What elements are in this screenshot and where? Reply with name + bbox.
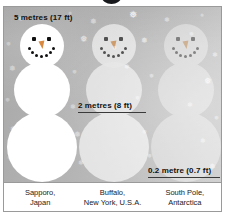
snowman-face [92, 24, 136, 68]
coal-mouth-icon [31, 51, 34, 54]
measurement-label-sapporo: 5 metres (17 ft) [14, 13, 73, 25]
coal-mouth-icon [45, 54, 48, 57]
coal-mouth-icon [196, 47, 199, 50]
coal-mouth-icon [124, 47, 127, 50]
caption-south-pole: South Pole, Antarctica [149, 183, 221, 212]
snowman-middle-ball [14, 62, 70, 118]
snowman-bottom-ball [79, 112, 149, 182]
coal-eye-icon [191, 37, 195, 41]
coal-mouth-icon [172, 47, 175, 50]
coal-mouth-icon [40, 55, 43, 58]
clipped-title-glyph [102, 0, 121, 4]
snowman-face [20, 24, 64, 68]
caption-line-1: South Pole, [165, 188, 204, 198]
coal-mouth-icon [49, 51, 52, 54]
caption-line-1: Sapporo, [25, 188, 55, 198]
coal-eye-icon [47, 37, 51, 41]
snowman-face [164, 24, 208, 68]
carrot-nose-icon [182, 41, 189, 50]
caption-strip: Sapporo, Japan Buffalo, New York, U.S.A.… [4, 182, 221, 212]
snowman-sapporo [6, 24, 78, 182]
coal-mouth-icon [100, 47, 103, 50]
measurement-text: 5 metres (17 ft) [14, 13, 73, 23]
coal-mouth-icon [179, 54, 182, 57]
coal-eye-icon [32, 37, 36, 41]
snowflake-icon: ❅ [200, 13, 204, 18]
coal-eye-icon [104, 37, 108, 41]
caption-line-2: Japan [30, 198, 50, 208]
coal-mouth-icon [103, 51, 106, 54]
snowman-height-comparison-figure: ❅ ❅ ❅ ❅ ❅ ❅ ❅ ❅ ❅ ❅ ❅ ❅ ❅ ❅ ❅ ❅ ❅ ❅ ❅ ❅ … [0, 0, 225, 215]
caption-line-2: New York, U.S.A. [84, 198, 142, 208]
measurement-text: 2 metres (8 ft) [78, 101, 146, 111]
coal-mouth-icon [112, 55, 115, 58]
snowman-bottom-ball [7, 112, 77, 182]
snow-scene: ❅ ❅ ❅ ❅ ❅ ❅ ❅ ❅ ❅ ❅ ❅ ❅ ❅ ❅ ❅ ❅ ❅ ❅ ❅ ❅ … [4, 7, 221, 182]
caption-sapporo: Sapporo, Japan [4, 183, 76, 212]
coal-mouth-icon [189, 54, 192, 57]
caption-buffalo: Buffalo, New York, U.S.A. [76, 183, 148, 212]
coal-mouth-icon [28, 47, 31, 50]
coal-mouth-icon [35, 54, 38, 57]
snowman-south-pole [150, 24, 221, 182]
measurement-rule [148, 177, 220, 178]
coal-mouth-icon [193, 51, 196, 54]
coal-mouth-icon [184, 55, 187, 58]
caption-line-2: Antarctica [168, 198, 201, 208]
carrot-nose-icon [110, 41, 117, 50]
coal-eye-icon [176, 37, 180, 41]
snowflake-icon: ❅ [129, 10, 137, 20]
measurement-rule [14, 24, 73, 25]
caption-line-1: Buffalo, [100, 188, 125, 198]
measurement-label-south-pole: 0.2 metre (0.7 ft) [148, 166, 220, 178]
measurement-label-buffalo: 2 metres (8 ft) [78, 101, 146, 113]
measurement-text: 0.2 metre (0.7 ft) [148, 166, 220, 176]
coal-mouth-icon [107, 54, 110, 57]
coal-mouth-icon [175, 51, 178, 54]
coal-eye-icon [119, 37, 123, 41]
coal-mouth-icon [117, 54, 120, 57]
snowflake-icon: ❅ [164, 16, 170, 23]
coal-mouth-icon [52, 47, 55, 50]
carrot-nose-icon [38, 41, 45, 50]
measurement-rule [78, 112, 146, 113]
coal-mouth-icon [121, 51, 124, 54]
snowman-middle-ball [158, 62, 214, 118]
